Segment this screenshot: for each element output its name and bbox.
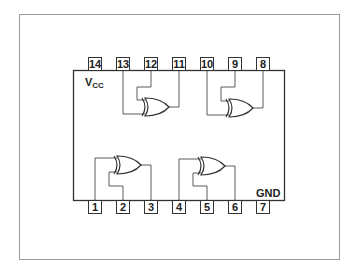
pin-10: 10 bbox=[201, 58, 214, 71]
svg-text:11: 11 bbox=[173, 58, 185, 70]
top-pins: 14 13 12 11 10 9 8 bbox=[89, 58, 270, 71]
gate-1-xor bbox=[95, 156, 151, 200]
gate-4-xor bbox=[207, 70, 263, 117]
svg-text:13: 13 bbox=[117, 58, 129, 70]
pin-8: 8 bbox=[257, 58, 270, 71]
svg-text:10: 10 bbox=[201, 58, 213, 70]
gnd-label: GND bbox=[256, 187, 281, 199]
pin-4: 4 bbox=[173, 201, 186, 214]
svg-text:9: 9 bbox=[232, 58, 238, 70]
svg-text:6: 6 bbox=[232, 201, 238, 213]
svg-text:14: 14 bbox=[89, 58, 102, 70]
pin-7: 7 bbox=[257, 201, 270, 214]
svg-text:1: 1 bbox=[92, 201, 98, 213]
gate-2-xor bbox=[179, 157, 235, 200]
ic-pinout-diagram: 14 13 12 11 10 9 8 1 2 3 4 5 6 7 VCC GND bbox=[0, 0, 358, 274]
pin-3: 3 bbox=[145, 201, 158, 214]
svg-text:12: 12 bbox=[145, 58, 157, 70]
bottom-pins: 1 2 3 4 5 6 7 bbox=[89, 201, 270, 214]
pin-12: 12 bbox=[145, 58, 158, 71]
svg-text:3: 3 bbox=[148, 201, 154, 213]
pin-2: 2 bbox=[117, 201, 130, 214]
svg-text:2: 2 bbox=[120, 201, 126, 213]
pin-6: 6 bbox=[229, 201, 242, 214]
svg-text:4: 4 bbox=[176, 201, 183, 213]
gate-3-xor bbox=[123, 70, 179, 116]
outer-frame bbox=[20, 15, 340, 260]
svg-text:8: 8 bbox=[260, 58, 266, 70]
pin-14: 14 bbox=[89, 58, 102, 71]
svg-text:5: 5 bbox=[204, 201, 210, 213]
pin-13: 13 bbox=[117, 58, 130, 71]
svg-text:7: 7 bbox=[260, 201, 266, 213]
pin-5: 5 bbox=[201, 201, 214, 214]
pin-1: 1 bbox=[89, 201, 102, 214]
pin-9: 9 bbox=[229, 58, 242, 71]
pin-11: 11 bbox=[173, 58, 186, 71]
vcc-label: VCC bbox=[85, 76, 104, 90]
